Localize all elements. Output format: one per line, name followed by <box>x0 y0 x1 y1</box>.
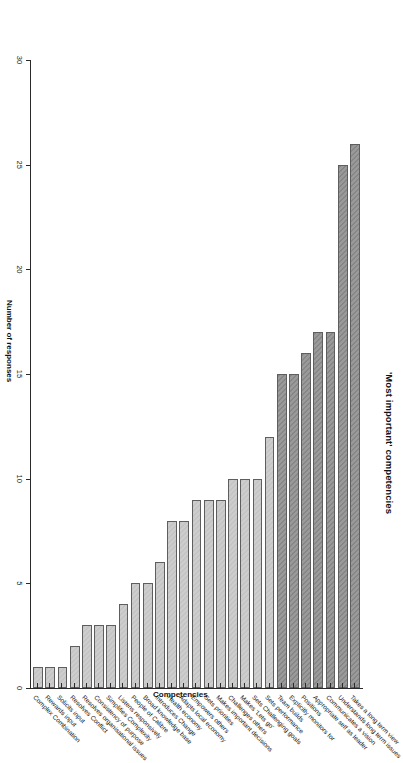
bar <box>228 479 238 688</box>
chart-title: 'Most important' competencies <box>384 372 395 514</box>
category-tick <box>281 683 282 688</box>
category-tick <box>61 683 62 688</box>
category-tick <box>244 683 245 688</box>
bar <box>326 332 336 688</box>
bar <box>33 667 43 688</box>
value-tick-30 <box>26 60 31 61</box>
bar <box>58 667 68 688</box>
value-tick-label-5: 5 <box>15 571 24 595</box>
bar <box>155 562 165 688</box>
bar <box>338 165 348 688</box>
category-tick <box>208 683 209 688</box>
plot-area: 'Most important' competencies Number of … <box>0 0 403 763</box>
value-tick-label-15: 15 <box>15 362 24 386</box>
category-tick <box>171 683 172 688</box>
category-tick <box>256 683 257 688</box>
bar <box>301 353 311 688</box>
value-tick-label-0: 0 <box>15 676 24 700</box>
bar <box>314 332 324 688</box>
category-tick <box>183 683 184 688</box>
bar <box>94 625 104 688</box>
bar <box>192 500 202 688</box>
category-tick <box>305 683 306 688</box>
bar <box>70 646 80 688</box>
category-tick <box>330 683 331 688</box>
bar <box>143 583 153 688</box>
value-tick-5 <box>26 583 31 584</box>
value-tick-25 <box>26 165 31 166</box>
value-tick-10 <box>26 479 31 480</box>
value-tick-label-25: 25 <box>15 153 24 177</box>
category-tick <box>98 683 99 688</box>
category-tick <box>269 683 270 688</box>
bar <box>216 500 226 688</box>
bar <box>82 625 92 688</box>
bar <box>45 667 55 688</box>
category-tick <box>74 683 75 688</box>
bar <box>106 625 116 688</box>
value-axis-title: Number of responses <box>5 300 14 382</box>
category-tick <box>317 683 318 688</box>
bar <box>179 521 189 688</box>
value-tick-label-10: 10 <box>15 467 24 491</box>
value-tick-0 <box>26 688 31 689</box>
category-tick <box>159 683 160 688</box>
category-tick <box>147 683 148 688</box>
bar <box>167 521 177 688</box>
bar <box>119 604 129 688</box>
bar <box>265 437 275 688</box>
category-tick <box>49 683 50 688</box>
category-axis-line <box>30 688 363 689</box>
value-tick-label-20: 20 <box>15 257 24 281</box>
category-tick <box>122 683 123 688</box>
value-tick-15 <box>26 374 31 375</box>
bar <box>277 374 287 688</box>
bar <box>289 374 299 688</box>
figure-root: 'Most important' competencies Number of … <box>0 0 403 763</box>
bar <box>131 583 141 688</box>
category-tick <box>354 683 355 688</box>
bar <box>240 479 250 688</box>
category-tick <box>37 683 38 688</box>
category-tick <box>232 683 233 688</box>
value-tick-20 <box>26 269 31 270</box>
value-tick-label-30: 30 <box>15 48 24 72</box>
category-tick <box>293 683 294 688</box>
bar <box>253 479 263 688</box>
category-tick <box>86 683 87 688</box>
bar <box>350 144 360 688</box>
category-tick <box>110 683 111 688</box>
category-tick <box>196 683 197 688</box>
bar <box>204 500 214 688</box>
category-tick <box>220 683 221 688</box>
category-tick <box>342 683 343 688</box>
category-tick <box>135 683 136 688</box>
